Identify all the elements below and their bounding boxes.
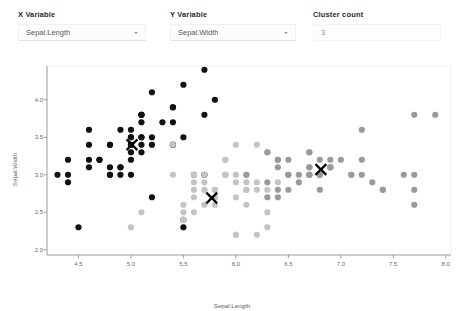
controls-panel: X Variable Sepal.Length Y Variable Sepal…: [0, 0, 464, 58]
y-variable-value: Sepal.Width: [171, 28, 218, 37]
x-tick-label: 8.0: [442, 261, 450, 267]
chevron-down-icon[interactable]: [284, 32, 288, 34]
chevron-down-icon[interactable]: [134, 32, 138, 34]
y-tick-label: 2.5: [25, 209, 43, 215]
x-tick-label: 5.5: [179, 261, 187, 267]
x-variable-control: X Variable Sepal.Length: [18, 10, 162, 41]
plot-axes: [44, 66, 452, 259]
x-tick-label: 7.5: [389, 261, 397, 267]
x-variable-label: X Variable: [18, 10, 162, 19]
cluster-count-input[interactable]: 3: [313, 24, 441, 41]
y-variable-label: Y Variable: [170, 10, 304, 19]
x-variable-select[interactable]: Sepal.Length: [18, 24, 146, 41]
scatter-svg: [0, 58, 464, 311]
x-tick-label: 6.5: [284, 261, 292, 267]
y-tick-label: 3.0: [25, 172, 43, 178]
y-tick-label: 3.5: [25, 134, 43, 140]
cluster-count-label: Cluster count: [313, 10, 447, 19]
x-tick-label: 7.0: [337, 261, 345, 267]
plot-points: [54, 67, 438, 238]
y-axis-title: Sepal.Width: [11, 140, 18, 200]
cluster-count-control: Cluster count 3: [313, 10, 447, 41]
x-tick-label: 4.5: [74, 261, 82, 267]
y-variable-select[interactable]: Sepal.Width: [170, 24, 296, 41]
x-axis-title: Sepal.Length: [0, 302, 464, 309]
y-variable-control: Y Variable Sepal.Width: [170, 10, 304, 41]
plot-centroids: [127, 139, 327, 203]
cluster-count-value: 3: [314, 28, 325, 37]
x-tick-label: 5.0: [127, 261, 135, 267]
cluster-scatter-plot: 4.55.05.56.06.57.07.58.02.02.53.03.54.0 …: [0, 58, 464, 311]
y-tick-label: 4.0: [25, 97, 43, 103]
y-tick-label: 2.0: [25, 247, 43, 253]
x-variable-value: Sepal.Length: [19, 28, 70, 37]
x-tick-label: 6.0: [232, 261, 240, 267]
